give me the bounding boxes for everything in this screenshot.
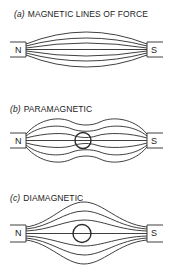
south-pole-label: S <box>151 45 157 55</box>
south-pole-label: S <box>151 136 157 146</box>
south-pole-label: S <box>151 228 157 238</box>
north-pole-label: N <box>15 136 22 146</box>
north-pole-label: N <box>15 45 22 55</box>
panel-diamagnetic: (c)DIAMAGNETIC N S <box>0 180 173 272</box>
field-lines-diagram-c <box>0 180 173 272</box>
panel-magnetic-lines-of-force: (a)MAGNETIC LINES OF FORCE N S <box>0 0 173 90</box>
panel-paramagnetic: (b)PARAMAGNETIC N S <box>0 90 173 180</box>
north-pole-label: N <box>15 228 22 238</box>
field-lines-diagram-a <box>0 0 173 90</box>
field-lines-diagram-b <box>0 90 173 180</box>
